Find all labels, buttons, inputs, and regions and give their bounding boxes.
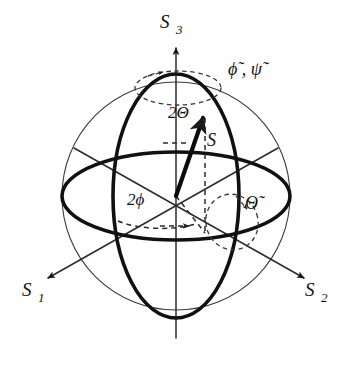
axis-label-s1: S 1 xyxy=(22,279,45,305)
theta-tilde-label: Θ̃ xyxy=(245,193,266,213)
axis-label-s2-base: S xyxy=(305,279,315,300)
phi-psi-tilde-label: ϕ̃ , ψ̃ xyxy=(228,59,270,79)
axis-label-s2: S 2 xyxy=(305,279,328,305)
figure-container: S 3 S 1 S 2 2Θ 2ϕ S ϕ̃ , ψ̃ Θ̃ xyxy=(0,0,350,374)
axis-s1-line xyxy=(48,148,278,278)
axis-label-s1-base: S xyxy=(22,279,32,300)
stokes-vector-label: S xyxy=(207,130,216,150)
axis-label-s3: S 3 xyxy=(160,11,183,37)
axis-label-s3-base: S xyxy=(160,11,170,32)
axis-label-s1-sub: 1 xyxy=(38,290,45,305)
poincare-sphere-diagram: S 3 S 1 S 2 2Θ 2ϕ S ϕ̃ , ψ̃ Θ̃ xyxy=(0,0,350,374)
axis-label-s2-sub: 2 xyxy=(321,290,328,305)
azimuth-angle-arc xyxy=(118,221,196,228)
polar-angle-label: 2Θ xyxy=(168,103,189,122)
stokes-vector-arrow xyxy=(176,118,203,196)
axis-label-s3-sub: 3 xyxy=(175,22,183,37)
azimuth-angle-label: 2ϕ xyxy=(127,190,145,209)
